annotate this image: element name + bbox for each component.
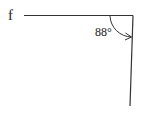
angle-diagram: f 88°	[0, 0, 141, 118]
vertical-line	[130, 16, 133, 107]
angle-arc	[110, 16, 132, 37]
line-f-label: f	[8, 7, 13, 23]
angle-label: 88°	[95, 25, 112, 39]
